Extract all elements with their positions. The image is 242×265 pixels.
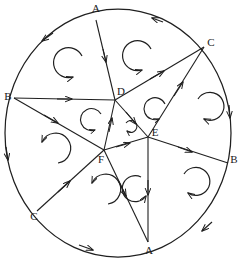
rot-sector-left-lower [42, 133, 71, 163]
chord-A-top-D [96, 20, 115, 100]
rot-sector-bottom-right [184, 167, 210, 195]
rot-sector-top-right [123, 41, 151, 71]
arc-arrow-right [229, 105, 230, 118]
chord-E-B-right [148, 137, 228, 163]
rot-sector-bottom-left [92, 174, 121, 204]
chord-E-C-right-top [148, 47, 204, 137]
rot-sector-bottom-mid [122, 176, 146, 202]
rot-sector-top-left [54, 48, 82, 78]
label-F-inner: F [98, 153, 104, 165]
outer-circle [5, 9, 231, 257]
chord-B-left-F [14, 98, 104, 150]
arc-arrow-bottom-left [79, 245, 93, 250]
label-E-inner: E [152, 126, 159, 138]
arc-arrow-top-left [42, 33, 53, 41]
rot-sector-right-upper [144, 98, 165, 120]
label-B-left: B [4, 90, 11, 102]
chord-D-E [115, 100, 148, 137]
label-A-bottom: A [145, 244, 153, 256]
chord-F-A-bottom [104, 150, 148, 242]
diagram-canvas: A C B D E B F C A [0, 0, 242, 265]
chord-F-D [104, 100, 115, 150]
label-A-top: A [92, 2, 100, 14]
chord-F-E [104, 137, 148, 150]
label-C-left-bot: C [30, 210, 37, 222]
arc-arrow-bottom-right [202, 222, 212, 231]
pinwheel-diagram: A C B D E B F C A [0, 0, 242, 265]
label-B-right: B [230, 153, 237, 165]
label-C-right-top: C [207, 36, 214, 48]
label-D-inner: D [117, 85, 125, 97]
rot-sector-right-outer [198, 92, 224, 120]
rot-sector-center-small [126, 120, 137, 132]
chord-D-C-right-top [115, 47, 204, 100]
rot-sector-mid-left [81, 109, 101, 131]
chord-B-left-D [14, 98, 115, 100]
